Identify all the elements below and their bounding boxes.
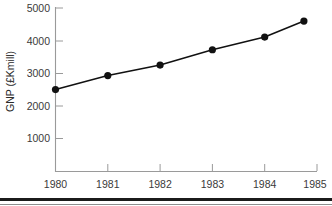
series-line-gnp (56, 21, 304, 90)
y-axis-title: GNP (£Kmill) (4, 51, 16, 112)
chart-figure: GNP (£Kmill) 5000 4000 3000 2000 1000 (0, 0, 332, 206)
footer-rule (0, 198, 332, 201)
data-point (104, 72, 111, 79)
data-point (209, 46, 216, 53)
line-chart: GNP (£Kmill) 5000 4000 3000 2000 1000 (0, 0, 332, 206)
y-tick-label: 3000 (27, 67, 51, 79)
y-tick-label: 4000 (27, 35, 51, 47)
data-point (300, 17, 307, 24)
data-point (261, 33, 268, 40)
x-tick-label: 1984 (253, 178, 277, 190)
x-axis-tick-labels: 1980 1981 1982 1983 1984 1985 (44, 178, 327, 190)
y-tick-label: 2000 (27, 100, 51, 112)
x-tick-label: 1980 (44, 178, 68, 190)
x-tick-label: 1982 (148, 178, 172, 190)
x-axis-ticks (56, 164, 318, 171)
x-tick-label: 1983 (201, 178, 225, 190)
y-axis-ticks (56, 8, 63, 139)
y-tick-label: 1000 (27, 132, 51, 144)
y-axis-tick-labels: 5000 4000 3000 2000 1000 (27, 2, 51, 144)
footer-rule-thin (0, 204, 332, 205)
y-tick-label: 5000 (27, 2, 51, 14)
data-point (52, 86, 59, 93)
data-point (157, 61, 164, 68)
x-tick-label: 1985 (303, 178, 327, 190)
series-markers-gnp (52, 17, 308, 93)
x-tick-label: 1981 (96, 178, 120, 190)
